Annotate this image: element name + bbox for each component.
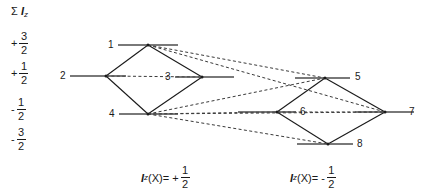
node-label-1: 1 [108,39,114,50]
vertex-dot-7 [384,111,387,114]
node-label-4: 4 [109,108,115,119]
vertex-dot-6 [276,111,279,114]
caption-fraction: 1 2 [181,165,190,190]
energy-level-bars [70,45,414,144]
node-label-8: 8 [357,138,363,149]
node-label-5: 5 [355,71,361,82]
vertex-dot-4 [147,113,150,116]
caption-argument: (X)= [297,172,318,184]
energy-level-graph [0,0,425,196]
caption-left: Iz(X)= + 1 2 [141,165,190,190]
solid-edge-5-7 [325,78,385,112]
caption-right: Iz(X)= - 1 2 [290,165,336,190]
vertex-dot-5 [324,77,327,80]
vertex-dot-2 [105,75,108,78]
fraction-denominator: 2 [181,179,189,190]
caption-sign: + [172,172,178,184]
node-label-2: 2 [60,70,66,81]
caption-argument: (X)= [148,172,169,184]
caption-sign: - [321,172,325,184]
dashed-edge-1-5 [148,45,325,78]
caption-fraction: 1 2 [327,165,336,190]
vertex-dot-1 [147,44,150,47]
spin-level-diagram: Σ Iz + 3 2 + 1 2 - 1 2 - 3 2 [0,0,425,196]
fraction-numerator: 1 [327,165,335,176]
vertex-dot-3 [201,76,204,79]
node-label-7: 7 [409,106,415,117]
node-label-6: 6 [300,106,306,117]
dashed-edge-4-8 [148,114,328,144]
vertex-dot-8 [327,143,330,146]
fraction-denominator: 2 [327,179,335,190]
fraction-numerator: 1 [181,165,189,176]
dashed-transition-lines [106,45,385,144]
node-label-3: 3 [165,71,171,82]
